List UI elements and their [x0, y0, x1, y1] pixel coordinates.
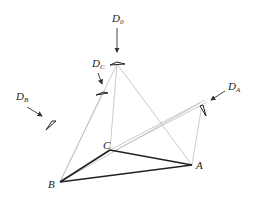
plate-db — [46, 121, 56, 130]
label-b: B — [48, 178, 55, 190]
direction-arrows — [27, 28, 225, 116]
label-c: C — [103, 139, 111, 151]
arrow-dc — [98, 73, 102, 84]
triangle-abc — [60, 150, 192, 182]
label-dc: DC — [91, 57, 105, 71]
arrow-da — [211, 91, 225, 100]
plate-d0 — [110, 62, 125, 65]
arrow-db — [27, 107, 42, 116]
projection-plates — [46, 62, 206, 130]
label-d0: D0 — [111, 12, 124, 26]
diagram-canvas: D0 DC DB DA C A B — [0, 0, 255, 199]
label-db: DB — [15, 90, 29, 104]
label-da: DA — [227, 80, 241, 94]
label-a: A — [195, 159, 203, 171]
